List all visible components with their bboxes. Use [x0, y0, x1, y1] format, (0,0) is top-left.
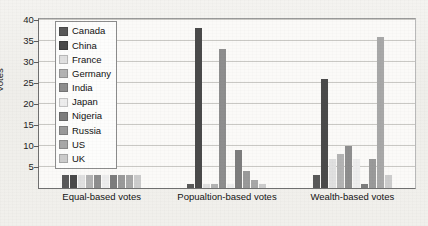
- legend-swatch-icon: [59, 41, 68, 50]
- bar: [337, 154, 344, 188]
- bar: [361, 184, 368, 188]
- legend-swatch-icon: [59, 27, 68, 36]
- legend-item-label: Russia: [72, 126, 101, 136]
- bar: [227, 184, 234, 188]
- y-axis-tick-label: 40: [23, 14, 34, 25]
- bar: [62, 175, 69, 188]
- legend-item-label: UK: [72, 154, 85, 164]
- bar: [86, 175, 93, 188]
- bar: [187, 184, 194, 188]
- x-axis-tick-label: Popualtion-based votes: [164, 191, 289, 202]
- legend-item: France: [59, 52, 111, 66]
- bar-group: [164, 19, 289, 188]
- bar: [110, 175, 117, 188]
- bar: [251, 180, 258, 188]
- legend-item-label: Canada: [72, 26, 105, 36]
- legend-item: India: [59, 81, 111, 95]
- y-axis-tick-label: 20: [23, 98, 34, 109]
- bar: [377, 37, 384, 188]
- legend-item: Canada: [59, 24, 111, 38]
- legend-swatch-icon: [59, 55, 68, 64]
- y-axis-tick-labels: 510152025303540: [0, 18, 34, 189]
- legend-item-label: India: [72, 83, 93, 93]
- bar: [243, 171, 250, 188]
- bar: [70, 175, 77, 188]
- bar: [313, 175, 320, 188]
- legend-item-label: US: [72, 140, 85, 150]
- y-axis-title: Votes: [0, 68, 5, 92]
- legend-swatch-icon: [59, 98, 68, 107]
- legend-item: China: [59, 38, 111, 52]
- legend-item-label: Germany: [72, 69, 111, 79]
- legend: CanadaChinaFranceGermanyIndiaJapanNigeri…: [55, 21, 117, 169]
- legend-item: Russia: [59, 123, 111, 137]
- bar-group: [290, 19, 415, 188]
- y-axis-tick-label: 30: [23, 56, 34, 67]
- legend-swatch-icon: [59, 112, 68, 121]
- bar: [134, 175, 141, 188]
- legend-swatch-icon: [59, 140, 68, 149]
- bar: [102, 175, 109, 188]
- y-axis-tick-label: 15: [23, 119, 34, 130]
- legend-swatch-icon: [59, 69, 68, 78]
- y-axis-tick-label: 5: [29, 161, 34, 172]
- bar: [353, 159, 360, 188]
- legend-swatch-icon: [59, 154, 68, 163]
- bar: [369, 159, 376, 188]
- bar: [94, 175, 101, 188]
- legend-item: UK: [59, 152, 111, 166]
- legend-item-label: Nigeria: [72, 111, 102, 121]
- x-axis-tick-labels: Equal-based votesPopualtion-based votesW…: [39, 191, 415, 202]
- legend-item-label: Japan: [72, 97, 98, 107]
- bar: [321, 79, 328, 188]
- legend-swatch-icon: [59, 83, 68, 92]
- legend-item-label: China: [72, 41, 97, 51]
- bar: [345, 146, 352, 188]
- y-axis-tick-label: 35: [23, 35, 34, 46]
- bar: [126, 175, 133, 188]
- bar: [203, 184, 210, 188]
- bar: [78, 175, 85, 188]
- bar: [211, 184, 218, 188]
- legend-item-label: France: [72, 55, 102, 65]
- bar: [219, 49, 226, 188]
- bar: [259, 184, 266, 188]
- y-axis-tick-label: 10: [23, 140, 34, 151]
- bar: [118, 175, 125, 188]
- legend-item: Germany: [59, 67, 111, 81]
- legend-item: Nigeria: [59, 109, 111, 123]
- legend-swatch-icon: [59, 126, 68, 135]
- bar: [195, 28, 202, 188]
- x-axis-tick-label: Wealth-based votes: [290, 191, 415, 202]
- x-axis-tick-label: Equal-based votes: [39, 191, 164, 202]
- bar: [329, 159, 336, 188]
- legend-item: Japan: [59, 95, 111, 109]
- y-axis-tick-label: 25: [23, 77, 34, 88]
- chart-page: 510152025303540 Votes Equal-based votesP…: [0, 0, 428, 226]
- legend-item: US: [59, 138, 111, 152]
- bar: [385, 175, 392, 188]
- bar: [235, 150, 242, 188]
